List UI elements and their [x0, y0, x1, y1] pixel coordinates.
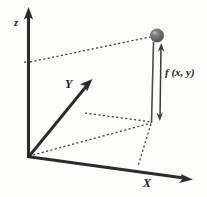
function-label: f (x, y) — [165, 66, 195, 79]
coordinate-system-diagram: z Y X f (x, y) — [0, 0, 207, 197]
x-axis-line — [27, 157, 184, 179]
function-measure-line — [160, 46, 161, 118]
x-axis-label: X — [142, 176, 152, 190]
y-axis-line — [29, 86, 87, 157]
point-drop-line — [152, 42, 154, 123]
y-axis-label: Y — [65, 77, 74, 91]
dashed-z-to-point — [30, 37, 150, 62]
figure-canvas: z Y X f (x, y) — [0, 0, 207, 197]
z-axis-label: z — [13, 17, 19, 28]
function-value-point — [150, 29, 163, 42]
sphere-highlight — [153, 31, 157, 34]
dashed-y-to-foot — [85, 113, 152, 122]
dashed-foot-to-x — [138, 124, 151, 166]
